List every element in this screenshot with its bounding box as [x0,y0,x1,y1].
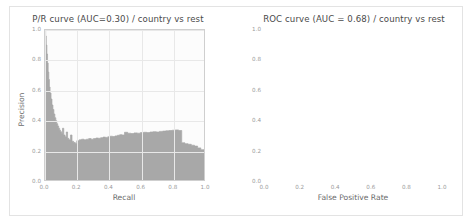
x-tick-label: 0.6 [136,184,145,190]
y-tick-label: 1.0 [26,26,41,32]
y-tick-label: 0.0 [26,178,41,184]
y-tick-label: 0.2 [246,148,261,154]
roc-panel: ROC curve (AUC = 0.68) / country vs rest… [236,0,472,223]
pr-curve-plot [45,30,204,180]
x-tick-label: 0.4 [331,184,340,190]
gridline-vertical [109,30,110,180]
y-tick-label: 0.4 [26,117,41,123]
y-tick-label: 0.8 [26,56,41,62]
precision-recall-panel: P/R curve (AUC=0.30) / country vs rest 0… [0,0,236,223]
gridline-horizontal [45,60,204,61]
y-tick-label: 0.6 [26,87,41,93]
x-tick-label: 0.4 [104,184,113,190]
gridline-horizontal [45,152,204,153]
gridline-horizontal [45,91,204,92]
pr-curve-area [45,30,204,180]
y-tick-label: 0.0 [246,178,261,184]
y-tick-label: 0.6 [246,87,261,93]
pr-chart-title: P/R curve (AUC=0.30) / country vs rest [0,14,236,24]
y-tick-label: 0.2 [26,148,41,154]
figure-canvas: P/R curve (AUC=0.30) / country vs rest 0… [0,0,472,223]
gridline-horizontal [45,30,204,31]
y-tick-label: 0.8 [246,56,261,62]
gridline-horizontal [45,121,204,122]
y-tick-label: 0.4 [246,117,261,123]
pr-x-axis-label: Recall [113,193,136,202]
x-tick-label: 0.8 [168,184,177,190]
x-tick-label: 0.8 [402,184,411,190]
gridline-vertical [45,30,46,180]
x-tick-label: 0.6 [366,184,375,190]
pr-plot-area [44,29,205,181]
gridline-vertical [77,30,78,180]
pr-y-axis-label: Precision [17,80,26,140]
x-tick-label: 0.0 [260,184,269,190]
gridline-vertical [142,30,143,180]
roc-chart-title: ROC curve (AUC = 0.68) / country vs rest [236,14,472,24]
x-tick-label: 0.2 [295,184,304,190]
y-tick-label: 1.0 [246,26,261,32]
roc-x-axis-label: False Positive Rate [318,193,389,202]
x-tick-label: 0.0 [40,184,49,190]
x-tick-label: 1.0 [438,184,447,190]
x-tick-label: 0.2 [72,184,81,190]
x-tick-label: 1.0 [201,184,210,190]
gridline-vertical [174,30,175,180]
